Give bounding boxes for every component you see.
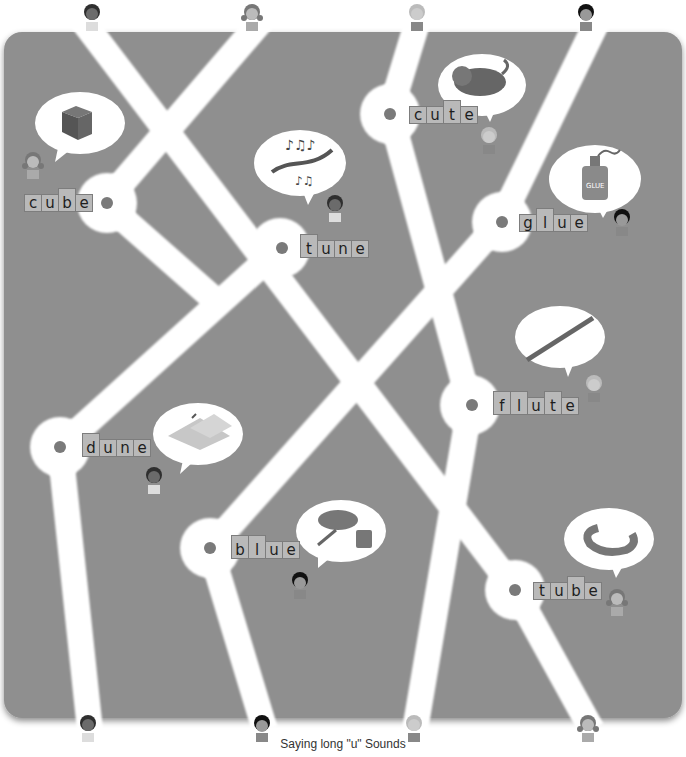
glue-kid-girl-bob [611,207,633,237]
kid-boy-blond-top[interactable] [406,2,428,32]
letter-tile: e [460,106,478,124]
letter-tile: u [265,541,283,559]
letter-tile: n [116,439,134,457]
letter-tile: u [426,106,444,124]
letter-tile: t [533,582,551,600]
letter-tile: u [99,439,117,457]
letter-tile: g [519,214,537,232]
letter-tile: b [567,576,585,600]
cube-kid-girl-pigtails [22,150,44,180]
svg-text:♪♫: ♪♫ [295,174,313,188]
letter-tile: e [584,582,602,600]
letter-tile: e [75,194,93,212]
letter-tile: e [133,439,151,457]
kid-boy-curly-top[interactable] [81,2,103,32]
svg-text:GLUE: GLUE [586,182,605,190]
word-dune: d u n e [82,435,150,457]
tube-kid-girl-pigtails [606,587,628,617]
flute-kid-boy-blond [583,373,605,403]
word-flute: f l u t e [493,393,578,415]
letter-tile: n [334,240,352,258]
letter-tile: c [24,194,42,212]
dune-kid-boy-curly [143,465,165,495]
page-caption: Saying long "u" Sounds [0,737,686,751]
letter-tile: e [282,541,300,559]
tune-kid-boy-curly [324,193,346,223]
letter-tile: e [570,214,588,232]
letter-tile: f [493,391,511,415]
cute-kid-boy-blond [478,125,500,155]
letter-tile: c [409,106,427,124]
letter-tile: l [536,208,554,232]
letter-tile: t [443,100,461,124]
letter-tile: l [248,535,266,559]
letter-tile: d [82,433,100,457]
letter-tile: e [351,240,369,258]
letter-tile: b [58,188,76,212]
word-cube: c u b e [24,190,92,212]
letter-tile: u [553,214,571,232]
word-glue: g l u e [519,210,587,232]
blue-kid-girl-bob [289,570,311,600]
letter-tile: u [317,240,335,258]
kid-girl-bob-top[interactable] [575,2,597,32]
letter-tile: u [41,194,59,212]
letter-tile: b [231,535,249,559]
letter-tile: u [527,397,545,415]
kid-girl-pigtails-top[interactable] [241,2,263,32]
word-tune: t u n e [300,236,368,258]
letter-tile: t [300,234,318,258]
word-blue: b l u e [231,537,299,559]
letter-tile: l [510,391,528,415]
letter-tile: u [550,582,568,600]
letter-tile: e [561,397,579,415]
word-cute: c u t e [409,102,477,124]
letter-tile: t [544,391,562,415]
svg-text:♪♫♪: ♪♫♪ [285,137,315,153]
word-tube: t u b e [533,578,601,600]
